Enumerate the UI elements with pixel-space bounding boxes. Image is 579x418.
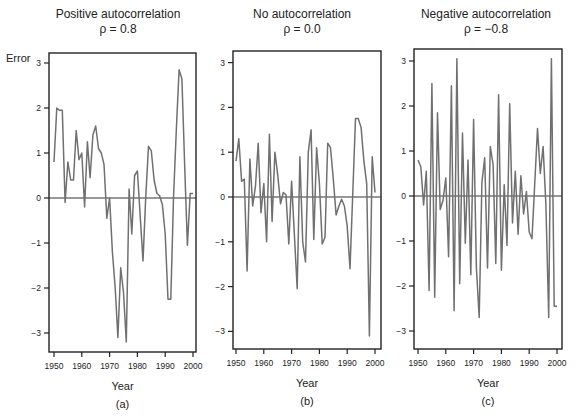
x-tick-label: 1990 bbox=[520, 358, 539, 368]
panel-a: Positive autocorrelationρ = 0.83210−1−2−… bbox=[31, 7, 202, 410]
y-axis-label: Error bbox=[6, 52, 31, 64]
y-tick-label: 3 bbox=[36, 58, 41, 68]
x-tick-label: 2000 bbox=[366, 358, 385, 368]
x-tick-label: 1950 bbox=[409, 358, 428, 368]
y-tick-label: −1 bbox=[396, 236, 406, 246]
panel-caption: (c) bbox=[482, 395, 495, 407]
x-tick-label: 1960 bbox=[436, 358, 455, 368]
y-tick-label: −3 bbox=[396, 326, 406, 336]
x-tick-label: 1960 bbox=[254, 358, 273, 368]
panel-title: No autocorrelation bbox=[253, 7, 351, 21]
panel-caption: (a) bbox=[116, 398, 129, 410]
x-tick-label: 1980 bbox=[128, 361, 147, 371]
rho-label: ρ = −0.8 bbox=[464, 22, 509, 36]
x-tick-label: 1980 bbox=[310, 358, 329, 368]
x-tick-label: 1970 bbox=[464, 358, 483, 368]
error-series-line bbox=[236, 119, 375, 336]
rho-label: ρ = 0.8 bbox=[99, 22, 137, 36]
y-tick-label: 0 bbox=[36, 193, 41, 203]
x-tick-label: 1980 bbox=[492, 358, 511, 368]
x-axis-label: Year bbox=[477, 377, 500, 389]
x-axis-label: Year bbox=[296, 377, 319, 389]
figure: ErrorPositive autocorrelationρ = 0.83210… bbox=[0, 0, 579, 418]
panel-b: No autocorrelationρ = 0.03210−1−2−319501… bbox=[215, 7, 384, 407]
y-tick-label: 0 bbox=[220, 192, 225, 202]
y-tick-label: −1 bbox=[215, 237, 225, 247]
y-tick-label: 1 bbox=[220, 147, 225, 157]
y-tick-label: 1 bbox=[36, 148, 41, 158]
y-tick-label: −2 bbox=[31, 283, 41, 293]
y-tick-label: 3 bbox=[401, 56, 406, 66]
x-tick-label: 1970 bbox=[282, 358, 301, 368]
y-tick-label: 3 bbox=[220, 58, 225, 68]
y-tick-label: 2 bbox=[401, 101, 406, 111]
panel-title: Negative autocorrelation bbox=[421, 7, 551, 21]
y-tick-label: 2 bbox=[36, 103, 41, 113]
x-axis-label: Year bbox=[111, 380, 134, 392]
panel-title: Positive autocorrelation bbox=[56, 7, 181, 21]
x-tick-label: 2000 bbox=[548, 358, 567, 368]
x-tick-label: 1990 bbox=[156, 361, 175, 371]
y-tick-label: −1 bbox=[31, 238, 41, 248]
x-tick-label: 1950 bbox=[227, 358, 246, 368]
error-series-line bbox=[418, 59, 557, 318]
panel-c: Negative autocorrelationρ = −0.83210−1−2… bbox=[396, 7, 566, 407]
y-tick-label: −3 bbox=[215, 326, 225, 336]
y-tick-label: 0 bbox=[401, 191, 406, 201]
y-tick-label: −2 bbox=[215, 282, 225, 292]
y-tick-label: 2 bbox=[220, 102, 225, 112]
error-series-line bbox=[54, 70, 193, 342]
y-tick-label: 1 bbox=[401, 146, 406, 156]
rho-label: ρ = 0.0 bbox=[283, 22, 321, 36]
x-tick-label: 1990 bbox=[338, 358, 357, 368]
x-tick-label: 1970 bbox=[100, 361, 119, 371]
y-tick-label: −3 bbox=[31, 328, 41, 338]
x-tick-label: 1950 bbox=[45, 361, 64, 371]
x-tick-label: 1960 bbox=[72, 361, 91, 371]
y-tick-label: −2 bbox=[396, 281, 406, 291]
panel-caption: (b) bbox=[300, 395, 313, 407]
x-tick-label: 2000 bbox=[184, 361, 203, 371]
